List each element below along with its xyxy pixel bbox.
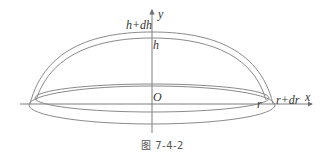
inner-radius-label: r xyxy=(257,97,262,111)
diagram-figure: h+dh y h O r r+dr x 图 7-4-2 xyxy=(0,0,325,165)
outer-radius-label: r+dr xyxy=(276,93,300,107)
origin-label: O xyxy=(153,90,162,104)
y-axis-label: y xyxy=(157,7,164,21)
figure-caption: 图 7-4-2 xyxy=(0,137,325,152)
outer-height-label: h+dh xyxy=(126,18,152,32)
x-axis-label: x xyxy=(304,90,311,104)
outer-dome-curve xyxy=(30,32,273,104)
inner-height-label: h xyxy=(153,38,159,52)
